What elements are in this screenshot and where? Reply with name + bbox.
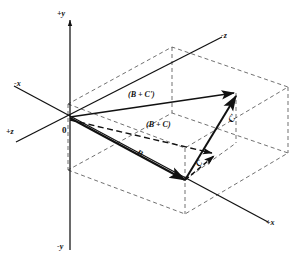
axis-arrowheads [68, 20, 72, 26]
axis-label-x-negative: -x [14, 80, 21, 88]
axis-label-y-negative: -y [57, 243, 63, 251]
axis-label-z-positive: +z [6, 128, 14, 136]
vector-label-b-plus-c-prime: (B + C') [128, 91, 155, 99]
vector-label-b-plus-c: (B + C) [146, 121, 171, 129]
vector-C-prime [185, 96, 236, 180]
axis-label-z-negative: -z [221, 32, 227, 40]
origin-label: 0 [62, 126, 67, 135]
coordinate-axes [14, 20, 268, 250]
axis-label-x-positive: +x [266, 219, 275, 227]
construction-box [68, 47, 288, 214]
figure-canvas: +y -y -x +x +z -z 0 (B + C') (B + C) B C… [0, 0, 300, 267]
axis-label-y-positive: +y [57, 10, 65, 18]
vector-diagram [0, 0, 300, 267]
axis-z [16, 37, 222, 142]
box-base-plane [68, 113, 288, 214]
axis-y-arrowhead [68, 20, 72, 26]
